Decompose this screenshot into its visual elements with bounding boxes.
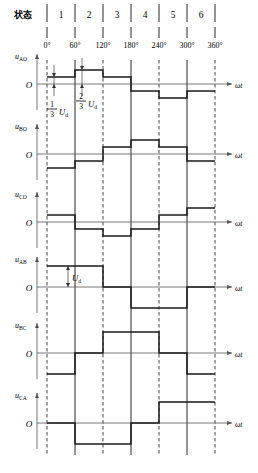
zero-origin-label: O [26,218,33,228]
state-number-4: 4 [143,10,148,20]
axis-arrow-icon [227,152,232,156]
axis-label-u_CA: uCA [15,391,27,401]
axis-arrow-icon [227,351,232,355]
annotation-two-thirds-ud: 23Ud [76,58,97,111]
vertical-axis-arrow-icon [35,124,39,129]
angle-tick-label-0: 0° [43,41,50,50]
state-row-label: 状态 [14,9,32,20]
angle-tick-label-360: 360° [207,41,222,50]
time-axis-label: ωt [235,151,243,160]
waveform-panel-u_CO: uCOOωt [15,190,243,248]
axis-arrow-icon [227,82,232,86]
angle-tick-label-240: 240° [151,41,166,50]
vertical-axis-arrow-icon [35,393,39,398]
axis-label-subscript: AB [19,259,27,265]
axis-label-u_AO: uAO [15,52,27,62]
vertical-axis-arrow-icon [35,192,39,197]
state-header-row: 状态123456 [14,4,215,22]
axis-label-u_BC: uBC [15,321,27,331]
vertical-axis-arrow-icon [35,257,39,262]
time-axis-label: ωt [235,350,243,359]
zero-origin-label: O [26,349,33,359]
axis-label-subscript: BO [19,126,27,132]
zero-origin-label: O [26,283,33,293]
state-number-6: 6 [199,10,204,20]
vertical-axis-arrow-icon [35,54,39,59]
zero-origin-label: O [26,419,33,429]
axis-label-subscript: BC [19,325,27,331]
one-third-unit: Ud [59,107,68,118]
ud-annotation-subscript: d [78,278,81,284]
time-axis-label: ωt [235,219,243,228]
state-number-5: 5 [171,10,176,20]
waveform-svg: 状态1234560°60°120°180°240°300°360°uAOOωtu… [0,0,258,473]
axis-label-subscript: AO [19,56,27,62]
axis-label-subscript: CA [19,395,27,401]
annotation-one-third-ud: 13Ud [47,65,68,119]
axis-label-u_AB: uAB [15,255,27,265]
ud-annotation-label: Ud [72,273,81,284]
two-thirds-numerator: 2 [79,92,83,101]
axis-arrow-icon [227,285,232,289]
measure-arrow-icon [52,84,56,88]
time-axis-label: ωt [235,81,243,90]
time-axis-label: ωt [235,420,243,429]
angle-tick-label-120: 120° [95,41,110,50]
two-thirds-denominator: 3 [79,102,83,111]
vertical-axis-arrow-icon [35,323,39,328]
waveform-panel-u_AB: uABOωt [15,255,243,313]
angle-tick-label-60: 60° [69,41,80,50]
measure-arrow-icon [80,84,84,88]
annotation-ud: Ud [66,266,81,287]
axis-label-u_CO: uCO [15,190,27,200]
angle-tick-label-300: 300° [179,41,194,50]
axis-label-subscript: CO [19,194,27,200]
zero-origin-label: O [26,80,33,90]
state-number-1: 1 [59,10,64,20]
angle-tick-label-180: 180° [123,41,138,50]
zero-origin-label: O [26,150,33,160]
measure-arrow-icon [66,283,70,287]
one-third-denominator: 3 [50,110,54,119]
one-third-numerator: 1 [50,100,54,109]
time-axis-label: ωt [235,284,243,293]
state-number-2: 2 [87,10,92,20]
waveform-figure: 状态1234560°60°120°180°240°300°360°uAOOωtu… [0,0,258,473]
axis-arrow-icon [227,421,232,425]
waveform-panel-u_CA: uCAOωt [15,391,243,449]
waveform-panel-u_BC: uBCOωt [15,321,243,379]
gridlines [47,60,215,455]
two-thirds-unit-subscript: d [94,104,97,110]
angle-axis: 0°60°120°180°240°300°360° [43,27,222,50]
two-thirds-unit: Ud [88,99,97,110]
state-number-3: 3 [115,10,120,20]
axis-arrow-icon [227,220,232,224]
waveform-panel-u_BO: uBOOωt [15,122,243,180]
axis-label-u_BO: uBO [15,122,27,132]
one-third-unit-subscript: d [65,112,68,118]
